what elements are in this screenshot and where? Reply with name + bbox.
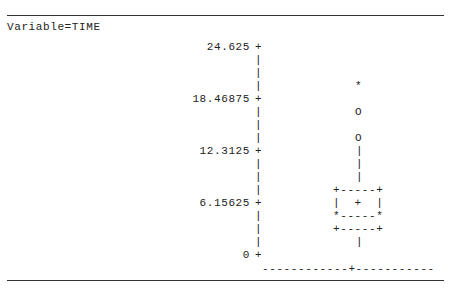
box-q1: +-----+ — [333, 223, 383, 236]
x-baseline: ------------+----------- — [262, 263, 435, 276]
box-median: *-----* — [333, 210, 383, 223]
y-axis: + | | | + | | | + | | | + | | | + — [255, 41, 262, 262]
outlier-o: O — [355, 106, 362, 119]
outlier-star: * — [355, 80, 362, 93]
top-rule — [7, 15, 444, 16]
lower-whisker: | — [356, 236, 363, 249]
y-tick-label: 6.15625 — [0, 197, 250, 210]
box-mean: | + | — [333, 197, 383, 210]
y-tick-label: 24.625 — [0, 41, 250, 54]
upper-whisker: | | | — [356, 145, 363, 184]
y-tick-label: 18.46875 — [0, 93, 250, 106]
y-tick-label: 12.3125 — [0, 145, 250, 158]
outlier-o: O — [355, 132, 362, 145]
box-q3: +-----+ — [333, 184, 383, 197]
variable-label: Variable=TIME — [7, 21, 101, 34]
y-tick-label: 0 — [0, 249, 250, 262]
bottom-rule — [7, 280, 444, 281]
